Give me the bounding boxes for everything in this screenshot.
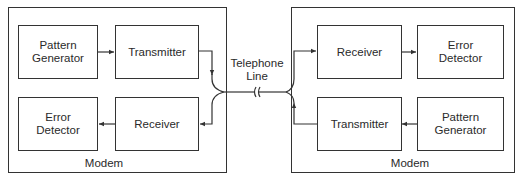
right-modem-label: Modem	[386, 157, 434, 170]
right-error-detector-block: Error Detector	[417, 25, 504, 79]
left-pattern-generator-block: Pattern Generator	[18, 25, 98, 79]
telephone-line-label: Telephone Line	[225, 57, 289, 83]
left-receiver-block: Receiver	[115, 97, 199, 151]
right-receiver-block: Receiver	[317, 25, 402, 79]
left-transmitter-block: Transmitter	[115, 25, 199, 79]
left-error-detector-block: Error Detector	[18, 97, 98, 151]
left-modem-label: Modem	[80, 157, 128, 170]
right-pattern-generator-block: Pattern Generator	[417, 97, 504, 151]
right-transmitter-block: Transmitter	[317, 97, 402, 151]
